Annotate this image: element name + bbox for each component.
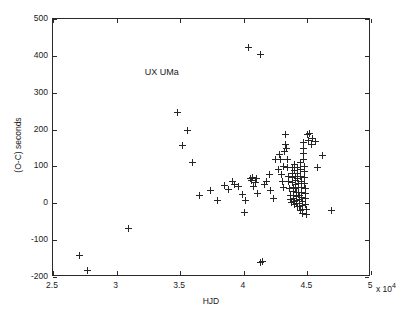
data-point xyxy=(221,182,228,189)
data-point xyxy=(283,145,290,152)
data-point xyxy=(293,197,300,204)
x-tick-label: 5 xyxy=(368,280,373,290)
x-tick xyxy=(307,271,308,275)
data-point xyxy=(281,148,288,155)
data-point xyxy=(290,192,297,199)
data-point xyxy=(300,145,307,152)
data-point xyxy=(266,171,273,178)
y-tick-label: -200 xyxy=(16,271,48,281)
data-point xyxy=(285,173,292,180)
data-point xyxy=(298,184,305,191)
data-point xyxy=(235,183,242,190)
y-tick xyxy=(53,93,57,94)
data-point xyxy=(294,164,301,171)
data-point xyxy=(196,192,203,199)
x-axis-label: HJD xyxy=(52,296,370,306)
data-point xyxy=(291,161,298,168)
data-point xyxy=(263,178,270,185)
data-point xyxy=(299,198,306,205)
data-point xyxy=(298,194,305,201)
data-point xyxy=(207,187,214,194)
data-point xyxy=(174,109,181,116)
y-tick-right xyxy=(365,19,369,20)
data-point xyxy=(319,152,326,159)
data-point xyxy=(308,141,315,148)
y-tick xyxy=(53,240,57,241)
data-point xyxy=(295,184,302,191)
data-point xyxy=(277,156,284,163)
data-point xyxy=(328,207,335,214)
y-tick-right xyxy=(365,166,369,167)
y-tick-right xyxy=(365,93,369,94)
data-point xyxy=(225,186,232,193)
data-point xyxy=(229,178,236,185)
data-point xyxy=(296,200,303,207)
y-tick xyxy=(53,203,57,204)
data-point xyxy=(295,180,302,187)
data-point xyxy=(282,141,289,148)
y-tick-label: 500 xyxy=(16,13,48,23)
data-point xyxy=(289,174,296,181)
data-point xyxy=(299,210,306,217)
data-point xyxy=(286,185,293,192)
data-point xyxy=(301,168,308,175)
data-point xyxy=(304,131,311,138)
x-tick-top xyxy=(371,19,372,23)
data-point xyxy=(300,139,307,146)
data-point xyxy=(289,179,296,186)
data-point xyxy=(312,138,319,145)
y-tick-right xyxy=(365,240,369,241)
data-point xyxy=(261,181,268,188)
data-point xyxy=(290,195,297,202)
data-point xyxy=(294,175,301,182)
data-point xyxy=(295,189,302,196)
data-point xyxy=(214,197,221,204)
data-point xyxy=(288,199,295,206)
data-point xyxy=(302,185,309,192)
data-point xyxy=(189,159,196,166)
x-tick-label: 4.5 xyxy=(300,280,312,290)
x-tick-top xyxy=(180,19,181,23)
data-point xyxy=(309,135,316,142)
data-point xyxy=(300,150,307,157)
data-point xyxy=(253,175,260,182)
data-point xyxy=(306,130,313,137)
data-point xyxy=(292,177,299,184)
data-point xyxy=(279,178,286,185)
y-tick xyxy=(53,130,57,131)
data-point xyxy=(290,184,297,191)
y-tick-label: -100 xyxy=(16,234,48,244)
data-point xyxy=(293,193,300,200)
y-tick-label: 400 xyxy=(16,50,48,60)
data-point xyxy=(299,206,306,213)
data-point xyxy=(292,181,299,188)
data-point xyxy=(282,131,289,138)
y-tick xyxy=(53,19,57,20)
data-point xyxy=(84,267,91,274)
data-point xyxy=(76,252,83,259)
data-point xyxy=(305,137,312,144)
data-point xyxy=(257,51,264,58)
x-tick xyxy=(117,271,118,275)
x-tick-label: 3 xyxy=(113,280,118,290)
data-point xyxy=(298,178,305,185)
data-point xyxy=(293,200,300,207)
data-point xyxy=(292,173,299,180)
data-point xyxy=(257,259,264,266)
data-point xyxy=(299,202,306,209)
data-point xyxy=(239,191,246,198)
plot-area xyxy=(52,18,370,276)
x-tick-label: 3.5 xyxy=(173,280,185,290)
y-tick xyxy=(53,56,57,57)
y-axis-label: (O-C) seconds xyxy=(13,95,23,195)
data-point xyxy=(179,142,186,149)
x-tick-top xyxy=(244,19,245,23)
data-point xyxy=(296,196,303,203)
data-point xyxy=(267,187,274,194)
data-point xyxy=(280,163,287,170)
x-tick-label: 4 xyxy=(240,280,245,290)
series-annotation: UX UMa xyxy=(145,67,179,77)
data-point xyxy=(284,156,291,163)
data-point xyxy=(254,190,261,197)
data-point xyxy=(314,164,321,171)
